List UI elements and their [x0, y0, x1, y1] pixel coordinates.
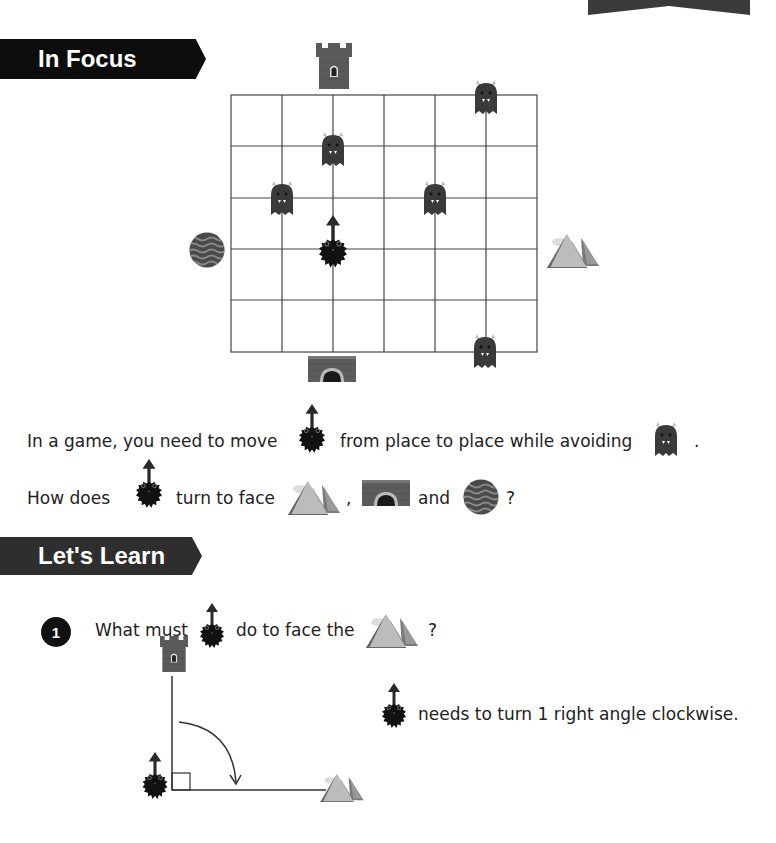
- bridge-icon: [362, 480, 410, 506]
- game-board: [0, 0, 776, 400]
- hero-icon: [143, 752, 168, 799]
- turn-diagram: [0, 630, 400, 830]
- mountains-icon: [320, 774, 363, 802]
- hero-icon: [319, 215, 347, 268]
- monster-icon: [474, 334, 496, 368]
- intro-line-1-cont: from place to place while avoiding: [340, 431, 632, 451]
- lets-learn-banner: Let's Learn: [0, 537, 202, 575]
- bridge-icon: [308, 356, 356, 382]
- monster-icon: [322, 132, 344, 166]
- monster-icon: [475, 80, 497, 114]
- intro-line-1: In a game, you need to move: [27, 431, 278, 451]
- intro-and: and: [418, 488, 450, 508]
- monster-icon: [653, 422, 679, 458]
- answer-text: needs to turn 1 right angle clockwise.: [418, 704, 739, 724]
- right-angle-marker: [172, 773, 190, 790]
- intro-text: In a game, you need to move: [27, 431, 278, 451]
- tower-icon: [316, 43, 352, 89]
- intro-question-mark: ?: [506, 488, 515, 508]
- mountains-icon: [547, 234, 599, 268]
- intro-line-2-cont: turn to face: [176, 488, 275, 508]
- lets-learn-title: Let's Learn: [38, 542, 165, 570]
- grid-lines: [231, 95, 537, 352]
- intro-period: .: [694, 431, 699, 451]
- monster-icon: [424, 181, 446, 215]
- intro-comma: ,: [346, 488, 351, 508]
- water-icon: [463, 479, 499, 515]
- intro-line-2: How does: [27, 488, 110, 508]
- hero-icon: [133, 459, 165, 511]
- monster-icon: [271, 181, 293, 215]
- question-1-mark: ?: [428, 620, 437, 640]
- water-icon: [189, 233, 225, 268]
- hero-icon: [296, 404, 328, 456]
- tower-icon: [160, 636, 188, 672]
- hero-icon: [380, 683, 408, 731]
- mountains-icon: [288, 479, 340, 515]
